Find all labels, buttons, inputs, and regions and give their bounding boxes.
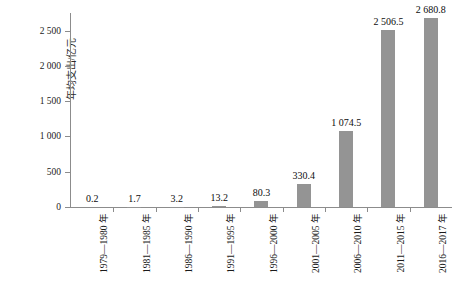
bar xyxy=(424,18,438,207)
bar xyxy=(381,30,395,207)
x-tick-mark xyxy=(156,208,157,212)
bar-group: 3.2 xyxy=(156,13,198,207)
y-tick-label: 1 500 xyxy=(21,96,61,106)
y-tick-label: 0 xyxy=(21,202,61,212)
x-tick-mark xyxy=(240,208,241,212)
y-tick-label-wrap: 2 500 xyxy=(0,26,70,36)
x-axis-line xyxy=(70,207,452,208)
y-tick-label-wrap: 1 500 xyxy=(0,96,70,106)
bar-group: 1 074.5 xyxy=(325,13,367,207)
bar-group: 13.2 xyxy=(198,13,240,207)
bar-group: 1.7 xyxy=(113,13,155,207)
y-tick-label-wrap: 2 000 xyxy=(0,61,70,71)
y-tick-label: 1 000 xyxy=(21,131,61,141)
x-tick-mark xyxy=(113,208,114,212)
x-axis-category-label: 1979—1980 年 xyxy=(98,213,111,297)
plot-area: 0.21.73.213.280.3330.41 074.52 506.52 68… xyxy=(71,13,452,207)
x-axis-category-label: 2001—2005 年 xyxy=(310,213,323,297)
x-axis-category-label: 2011—2015 年 xyxy=(395,213,408,297)
x-axis-category-label: 2016—2017 年 xyxy=(437,213,450,297)
bar-chart: 年均支出/亿元 05001 0001 5002 0002 500 0.21.73… xyxy=(0,0,463,302)
x-axis-category-label: 1991—1995 年 xyxy=(225,213,238,297)
x-axis-category-label: 1986—1990 年 xyxy=(183,213,196,297)
bar-value-label: 2 680.8 xyxy=(396,4,463,16)
y-tick-label-wrap: 1 000 xyxy=(0,131,70,141)
y-tick-label-wrap: 500 xyxy=(0,167,70,177)
x-tick-mark xyxy=(198,208,199,212)
x-tick-mark xyxy=(283,208,284,212)
bar-group: 330.4 xyxy=(283,13,325,207)
y-tick-label: 500 xyxy=(21,167,61,177)
bar xyxy=(339,131,353,207)
bar xyxy=(212,206,226,207)
x-axis-category-label: 2006—2010 年 xyxy=(352,213,365,297)
x-tick-mark xyxy=(367,208,368,212)
y-tick-label: 2 500 xyxy=(21,26,61,36)
bar xyxy=(297,184,311,207)
x-tick-mark xyxy=(410,208,411,212)
bar-group: 2 680.8 xyxy=(410,13,452,207)
bar-group: 0.2 xyxy=(71,13,113,207)
y-tick-label: 2 000 xyxy=(21,61,61,71)
x-axis-category-label: 1996—2000 年 xyxy=(268,213,281,297)
bar-group: 2 506.5 xyxy=(367,13,409,207)
x-axis-category-label: 1981—1985 年 xyxy=(141,213,154,297)
bar xyxy=(254,201,268,207)
x-tick-mark xyxy=(325,208,326,212)
